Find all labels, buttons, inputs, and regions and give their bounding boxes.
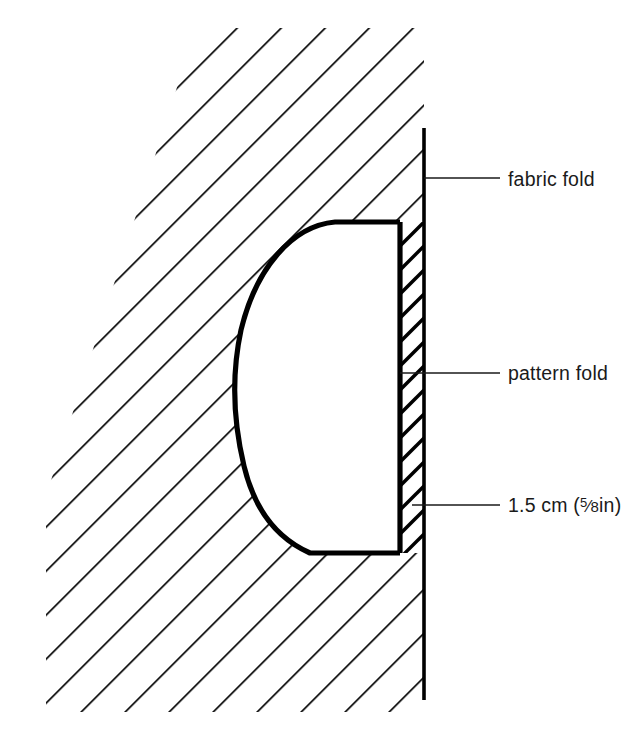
imperial-fraction: 5⁄8 — [580, 494, 599, 517]
imperial-close-paren: ) — [615, 494, 622, 516]
sewing-pattern-diagram: fabric fold pattern fold 1.5 cm (5⁄8in) — [0, 0, 639, 744]
seam-allowance-metric: 1.5 cm ( — [508, 494, 580, 516]
label-pattern-fold: pattern fold — [508, 362, 608, 385]
imperial-unit: in — [599, 494, 615, 516]
label-fabric-fold: fabric fold — [508, 168, 595, 191]
fraction-denominator: 8 — [591, 498, 600, 515]
label-seam-allowance: 1.5 cm (5⁄8in) — [508, 494, 621, 517]
